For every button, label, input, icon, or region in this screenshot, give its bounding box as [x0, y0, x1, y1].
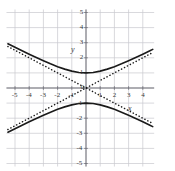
y-tick-label: 1 — [80, 69, 84, 76]
x-tick-label: -4 — [26, 92, 32, 99]
y-tick-label: 4 — [80, 24, 84, 31]
x-tick-label: -2 — [54, 92, 60, 99]
hyperbola-chart-figure: -5-4-3-2-11234-5-4-3-2-1123450 y x — [0, 0, 175, 171]
x-axis-label: x — [128, 105, 132, 113]
y-tick-label: -4 — [76, 145, 82, 152]
y-tick-label: -1 — [76, 100, 82, 107]
x-tick-label: -1 — [69, 92, 75, 99]
x-tick-label: 3 — [127, 92, 131, 99]
x-tick-label: 1 — [99, 92, 103, 99]
y-tick-label: 3 — [80, 39, 84, 46]
chart-canvas — [0, 0, 175, 171]
y-axis-label: y — [71, 46, 75, 54]
y-tick-label: 2 — [80, 54, 84, 61]
x-tick-label: -5 — [12, 92, 18, 99]
y-tick-label: -3 — [76, 130, 82, 137]
y-tick-label: -5 — [76, 160, 82, 167]
origin-label: 0 — [81, 84, 85, 91]
y-tick-label: -2 — [76, 115, 82, 122]
y-tick-label: 5 — [80, 9, 84, 16]
x-tick-label: 2 — [113, 92, 117, 99]
x-tick-label: 4 — [141, 92, 145, 99]
x-tick-label: -3 — [40, 92, 46, 99]
